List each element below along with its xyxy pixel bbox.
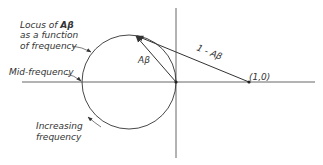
vector-ab-label: Aβ	[137, 55, 150, 65]
vector-one-minus-ab	[137, 36, 249, 82]
increasing-frequency-label-line2: frequency	[36, 132, 82, 142]
locus-label-line3: of frequency	[20, 41, 78, 51]
mid-frequency-label: Mid-frequency	[9, 67, 74, 77]
origin-point	[174, 80, 177, 83]
locus-label-line1: Locus of Aβ	[20, 20, 74, 30]
point-one-zero-label: (1,0)	[249, 72, 270, 82]
vector-one-minus-ab-label: 1 - Aβ	[195, 43, 224, 62]
increasing-frequency-label-line1: Increasing	[36, 121, 83, 131]
locus-label-line2: as a function	[20, 30, 79, 40]
feedback-locus-diagram: Locus of Aβ as a function of frequency M…	[0, 0, 323, 165]
